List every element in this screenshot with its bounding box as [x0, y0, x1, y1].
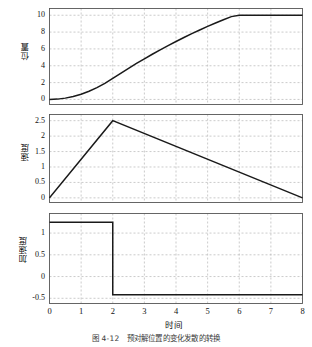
xtick-label: 4 [169, 306, 183, 316]
panel-velocity [49, 114, 303, 203]
ytick-label: 10 [17, 10, 45, 19]
xtick-label: 7 [264, 306, 278, 316]
ytick-label: 0.5 [17, 177, 45, 186]
ytick-label: 2 [17, 131, 45, 140]
x-axis-label: 时间 [165, 318, 183, 330]
xtick-label: 2 [106, 306, 120, 316]
xtick-label: 3 [137, 306, 151, 316]
ytick-label: 1 [17, 228, 45, 237]
panel-position [49, 8, 303, 105]
ytick-label: -0.5 [17, 293, 45, 302]
ytick-label: 0 [17, 193, 45, 202]
ytick-label: 0.5 [17, 250, 45, 259]
figure-caption: 图 4-12 预对解位置的变化发散的转换 [0, 332, 312, 343]
xtick-label: 6 [232, 306, 246, 316]
ytick-label: 1 [17, 162, 45, 171]
acceleration-plot [49, 213, 303, 304]
ytick-label: 0 [17, 272, 45, 281]
position-plot [49, 8, 303, 105]
ytick-label: 2 [17, 78, 45, 87]
ytick-label: 0 [17, 94, 45, 103]
xtick-label: 0 [43, 306, 57, 316]
ytick-label: 6 [17, 44, 45, 53]
xtick-label: 1 [74, 306, 88, 316]
ytick-label: 8 [17, 27, 45, 36]
velocity-plot [49, 114, 303, 203]
xtick-label: 5 [201, 306, 215, 316]
kinematics-figure: 位置 0246810 速度 00.511.522.5 加速度 -0.500.51… [0, 0, 312, 347]
xtick-label: 8 [296, 306, 310, 316]
ytick-label: 1.5 [17, 147, 45, 156]
ytick-label: 2.5 [17, 116, 45, 125]
ytick-label: 4 [17, 61, 45, 70]
panel-acceleration [49, 213, 303, 304]
